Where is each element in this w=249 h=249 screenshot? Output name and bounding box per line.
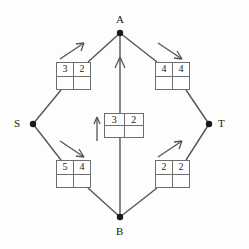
capacity-box-a-t: 4 4 <box>155 62 190 90</box>
node-dot-a[interactable] <box>117 30 123 36</box>
edge-line-s-a-upper <box>88 33 120 62</box>
node-label-b: B <box>116 226 123 237</box>
edge-line-a-t-lower <box>186 90 209 124</box>
capacity-box-b-a-top-row: 3 2 <box>105 114 143 126</box>
node-dot-t[interactable] <box>206 121 212 127</box>
edge-line-a-t-upper <box>120 33 157 62</box>
capacity-box-b-t-cell-4 <box>173 175 189 188</box>
capacity-box-s-b-cell-2: 4 <box>74 161 90 174</box>
diagram-canvas: A S T B 3 2 4 4 3 2 <box>0 0 249 249</box>
capacity-box-b-t-cell-3 <box>156 175 173 188</box>
capacity-box-s-a: 3 2 <box>56 62 91 90</box>
direction-arrow-b-t-icon <box>158 141 182 157</box>
edge-line-b-t-lower <box>120 188 157 217</box>
capacity-box-s-b-top-row: 5 4 <box>57 161 90 175</box>
capacity-box-a-t-bottom-row <box>156 77 189 90</box>
capacity-box-b-t-cell-1: 2 <box>156 161 173 174</box>
capacity-box-b-t-cell-2: 2 <box>173 161 189 174</box>
capacity-box-b-a-cell-2: 2 <box>125 114 144 125</box>
capacity-box-b-t-top-row: 2 2 <box>156 161 189 175</box>
direction-arrow-b-a-icon <box>94 117 100 141</box>
capacity-box-s-a-bottom-row <box>57 77 90 90</box>
edge-line-s-b-lower <box>88 188 120 217</box>
edge-line-b-t-upper <box>186 124 209 160</box>
capacity-box-b-a-cell-4 <box>125 126 144 137</box>
direction-arrow-s-a-icon <box>60 43 84 59</box>
capacity-box-s-a-top-row: 3 2 <box>57 63 90 77</box>
node-label-s: S <box>14 118 20 129</box>
capacity-box-s-b: 5 4 <box>56 160 91 188</box>
node-dot-s[interactable] <box>30 121 36 127</box>
capacity-box-a-t-cell-1: 4 <box>156 63 173 76</box>
capacity-box-b-a-cell-1: 3 <box>105 114 125 125</box>
capacity-box-a-t-top-row: 4 4 <box>156 63 189 77</box>
capacity-box-a-t-cell-3 <box>156 77 173 90</box>
capacity-box-b-a: 3 2 <box>104 113 144 138</box>
capacity-box-s-a-cell-4 <box>74 77 90 90</box>
capacity-box-s-b-cell-1: 5 <box>57 161 74 174</box>
capacity-box-s-a-cell-2: 2 <box>74 63 90 76</box>
capacity-box-b-t-bottom-row <box>156 175 189 188</box>
capacity-box-b-t: 2 2 <box>155 160 190 188</box>
capacity-box-s-b-bottom-row <box>57 175 90 188</box>
direction-arrow-a-t-icon <box>158 43 182 59</box>
capacity-box-s-a-cell-1: 3 <box>57 63 74 76</box>
capacity-box-s-b-cell-3 <box>57 175 74 188</box>
edge-line-s-b-upper <box>33 124 61 160</box>
edge-line-s-a-lower <box>33 90 61 124</box>
capacity-box-s-b-cell-4 <box>74 175 90 188</box>
node-label-a: A <box>116 14 124 25</box>
capacity-box-s-a-cell-3 <box>57 77 74 90</box>
capacity-box-a-t-cell-2: 4 <box>173 63 189 76</box>
capacity-box-a-t-cell-4 <box>173 77 189 90</box>
capacity-box-b-a-bottom-row <box>105 126 143 137</box>
direction-arrow-s-b-icon <box>60 141 84 157</box>
node-dot-b[interactable] <box>117 214 123 220</box>
capacity-box-b-a-cell-3 <box>105 126 125 137</box>
node-label-t: T <box>218 118 225 129</box>
